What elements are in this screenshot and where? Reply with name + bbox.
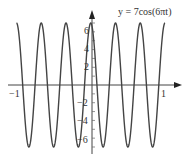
x-tick-1: 1 — [161, 89, 166, 99]
y-tick-4: 4 — [84, 44, 89, 54]
y-tick-2: 2 — [84, 62, 89, 72]
y-tick-neg6: −6 — [77, 135, 88, 145]
x-axis-arrow-icon — [174, 82, 182, 88]
y-tick-neg2: −2 — [77, 98, 88, 108]
y-axis-arrow-icon — [89, 10, 95, 19]
chart: y = 7cos(6πt) −1 1 6 4 2 −2 −4 −6 — [0, 0, 187, 159]
y-tick-neg4: −4 — [77, 116, 88, 126]
y-tick-6: 6 — [84, 26, 89, 36]
plot-area — [0, 0, 187, 159]
chart-title: y = 7cos(6πt) — [118, 6, 171, 17]
x-tick-neg1: −1 — [9, 89, 20, 99]
